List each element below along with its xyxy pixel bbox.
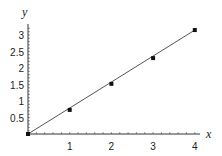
y-tick-label: 1 [18,96,24,107]
y-tick-label: 1.5 [10,80,24,91]
x-tick-label: 3 [150,141,156,152]
y-tick-label: 2 [18,63,24,74]
y-tick-labels: 0.511.522.53 [10,30,24,124]
scatter-chart: 0.511.522.53 1234 x y [0,0,222,156]
y-tick-label: 2.5 [10,47,24,58]
x-tick-label: 4 [192,141,198,152]
x-tick-label: 1 [67,141,73,152]
data-point [151,56,155,60]
x-tick-label: 2 [109,141,115,152]
x-tick-labels: 1234 [67,141,198,152]
data-point [193,28,197,32]
data-point [26,132,30,136]
x-axis-label: x [205,127,212,141]
data-point [68,108,72,112]
data-point [109,82,113,86]
y-tick-label: 0.5 [10,113,24,124]
y-tick-label: 3 [18,30,24,41]
y-axis-label: y [21,5,28,19]
